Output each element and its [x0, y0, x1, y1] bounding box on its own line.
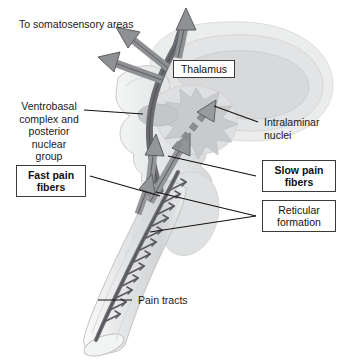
label-to-somatosensory-areas: To somatosensory areas: [19, 18, 133, 31]
label-pain-tracts: Pain tracts: [138, 294, 188, 307]
label-fast-pain-fibers: Fast pain fibers: [16, 165, 86, 197]
label-intralaminar-nuclei: Intralaminar nuclei: [264, 116, 342, 141]
label-reticular-formation: Reticular formation: [262, 200, 336, 232]
label-thalamus: Thalamus: [173, 60, 235, 78]
figure-canvas: To somatosensory areas Thalamus Ventroba…: [0, 0, 344, 360]
label-slow-pain-fibers: Slow pain fibers: [262, 160, 336, 192]
ventrobasal-complex-oval: [138, 104, 178, 126]
label-ventrobasal-complex: Ventrobasal complex and posterior nuclea…: [14, 100, 84, 163]
